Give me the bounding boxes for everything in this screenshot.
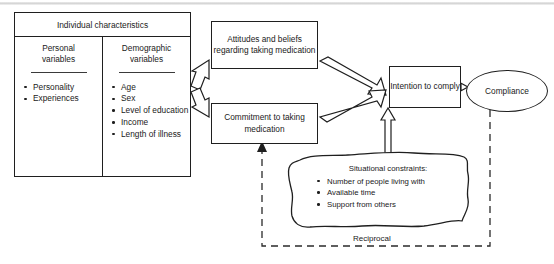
node-commitment-to-taking-medication: Commitment to taking medication <box>211 103 318 144</box>
reciprocal-feedback-label: Reciprocal <box>350 234 394 243</box>
list-item: Number of people living with <box>317 176 463 188</box>
node-intention-to-comply: Intention to comply <box>389 66 461 108</box>
arrow-table-to-attitudes <box>191 60 209 90</box>
diagram-canvas: Individual characteristics Personal vari… <box>0 0 554 264</box>
table-header: Individual characteristics <box>15 13 190 37</box>
list-item: Available time <box>317 187 463 199</box>
arrow-table-to-commitment <box>191 88 209 117</box>
node-attitudes-and-beliefs: Attitudes and beliefs regarding taking m… <box>211 21 318 69</box>
column-personal-variables: Personal variables Personality Experienc… <box>15 37 103 176</box>
list-item: Experiences <box>24 93 79 105</box>
situational-constraints-header: Situational constraints: <box>303 163 463 175</box>
list-item: Income <box>112 117 188 129</box>
column-header-personal: Personal variables <box>42 43 75 65</box>
column-header-demographic: Demographic variables <box>122 43 171 65</box>
situational-constraints-list: Number of people living with Available t… <box>317 176 463 211</box>
list-item: Age <box>112 82 188 94</box>
node-compliance: Compliance <box>466 70 548 112</box>
list-item: Length of illness <box>112 129 188 141</box>
arrow-commitment-to-intention <box>320 90 386 122</box>
column-rule-personal <box>31 72 87 73</box>
list-item: Level of education <box>112 105 188 117</box>
arrow-constraints-to-intention <box>381 108 395 153</box>
table-columns: Personal variables Personality Experienc… <box>15 37 190 176</box>
arrow-attitudes-to-intention <box>320 57 386 95</box>
list-item: Personality <box>24 82 79 94</box>
list-item: Support from others <box>317 199 463 211</box>
situational-constraints-content: Situational constraints: Number of peopl… <box>303 163 463 211</box>
column-demographic-variables: Demographic variables Age Sex Level of e… <box>103 37 190 176</box>
demographic-variables-list: Age Sex Level of education Income Length… <box>110 82 188 141</box>
column-rule-demographic <box>119 72 175 73</box>
individual-characteristics-table: Individual characteristics Personal vari… <box>14 12 191 177</box>
list-item: Sex <box>112 93 188 105</box>
personal-variables-list: Personality Experiences <box>22 82 79 106</box>
